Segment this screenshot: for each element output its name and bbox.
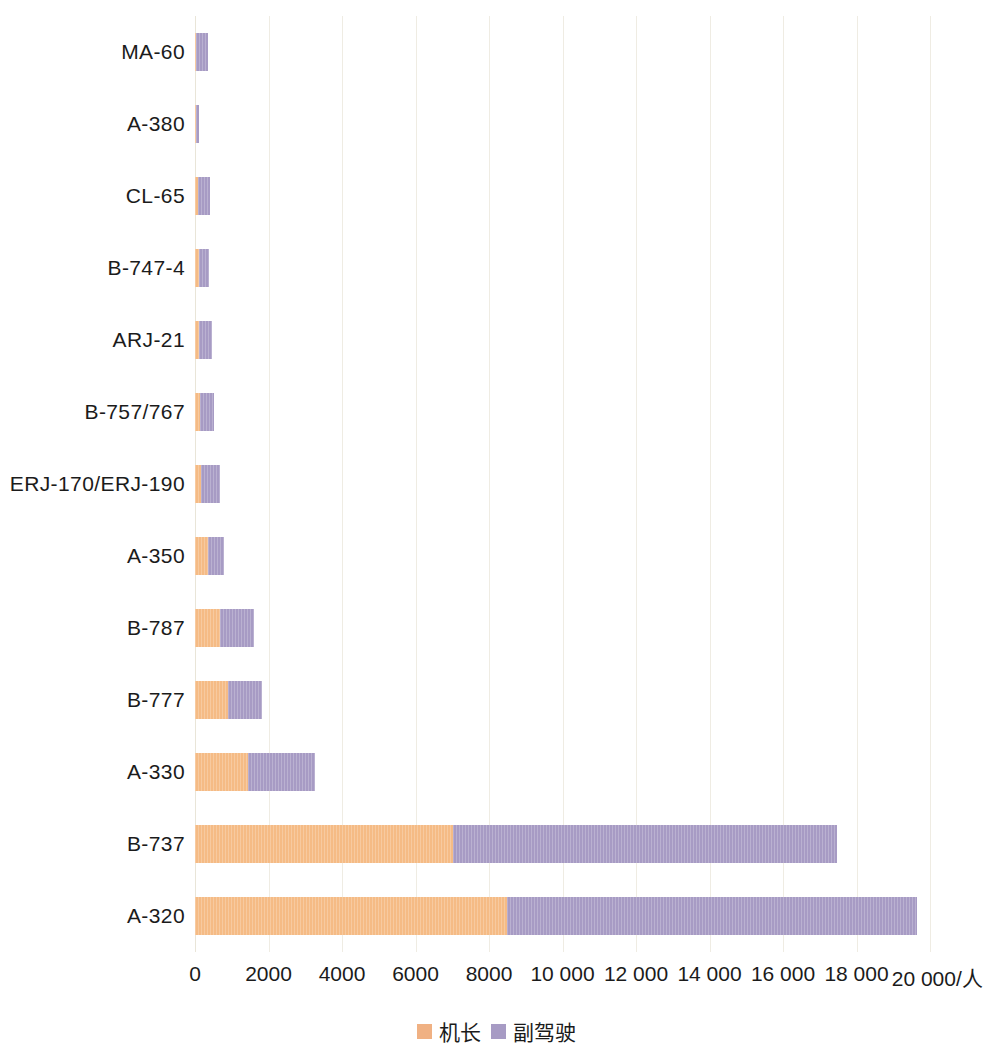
- bar-segment-first-officer[interactable]: [200, 393, 214, 431]
- legend-label: 机长: [439, 1016, 481, 1046]
- bar-segment-first-officer[interactable]: [201, 465, 220, 503]
- category-label: MA-60: [0, 40, 185, 64]
- bar-segment-first-officer[interactable]: [507, 897, 917, 935]
- bar-segment-first-officer[interactable]: [196, 33, 208, 71]
- category-label: ERJ-170/ERJ-190: [0, 472, 185, 496]
- stacked-bar[interactable]: [195, 321, 212, 359]
- gridline: [930, 16, 931, 952]
- bar-segment-first-officer[interactable]: [208, 537, 224, 575]
- bar-row: [195, 376, 930, 448]
- stacked-bar[interactable]: [195, 537, 224, 575]
- bar-segment-first-officer[interactable]: [453, 825, 837, 863]
- x-axis-tick-label: 18 000: [824, 962, 888, 986]
- bar-segment-first-officer[interactable]: [220, 609, 254, 647]
- category-label: B-737: [0, 832, 185, 856]
- category-label: ARJ-21: [0, 328, 185, 352]
- stacked-bar[interactable]: [195, 249, 209, 287]
- category-label-row: B-747-4: [0, 232, 185, 304]
- bar-row: [195, 592, 930, 664]
- bar-row: [195, 88, 930, 160]
- bar-segment-first-officer[interactable]: [199, 321, 212, 359]
- legend-label: 副驾驶: [513, 1016, 576, 1046]
- bar-row: [195, 16, 930, 88]
- bar-row: [195, 160, 930, 232]
- legend-swatch: [491, 1024, 506, 1039]
- bar-segment-captain[interactable]: [195, 537, 208, 575]
- x-axis-tick-label: 2000: [245, 962, 292, 986]
- category-label: B-747-4: [0, 256, 185, 280]
- value-axis-labels: 0200040006000800010 00012 00014 00016 00…: [0, 962, 993, 996]
- bar-row: [195, 232, 930, 304]
- stacked-bar-chart: MA-60A-380CL-65B-747-4ARJ-21B-757/767ERJ…: [0, 0, 993, 1052]
- stacked-bar[interactable]: [195, 825, 837, 863]
- category-axis-labels: MA-60A-380CL-65B-747-4ARJ-21B-757/767ERJ…: [0, 16, 185, 952]
- category-label: B-777: [0, 688, 185, 712]
- category-label-row: B-777: [0, 664, 185, 736]
- category-label: A-380: [0, 112, 185, 136]
- category-label-row: A-330: [0, 736, 185, 808]
- x-axis-tick-label: 6000: [392, 962, 439, 986]
- bar-row: [195, 304, 930, 376]
- legend-swatch: [417, 1024, 432, 1039]
- stacked-bar[interactable]: [195, 465, 220, 503]
- bar-segment-first-officer[interactable]: [196, 105, 199, 143]
- bar-segment-first-officer[interactable]: [248, 753, 315, 791]
- category-label-row: ERJ-170/ERJ-190: [0, 448, 185, 520]
- stacked-bar[interactable]: [195, 609, 254, 647]
- legend-item[interactable]: 机长: [417, 1016, 481, 1046]
- stacked-bar[interactable]: [195, 105, 199, 143]
- x-axis-tick-label: 10 000: [530, 962, 594, 986]
- x-axis-tick-label: 12 000: [604, 962, 668, 986]
- category-label-row: A-350: [0, 520, 185, 592]
- stacked-bar[interactable]: [195, 753, 315, 791]
- bar-row: [195, 736, 930, 808]
- x-axis-tick-label: 16 000: [751, 962, 815, 986]
- category-label: A-330: [0, 760, 185, 784]
- category-label-row: B-757/767: [0, 376, 185, 448]
- chart-legend: 机长副驾驶: [0, 1016, 993, 1046]
- bar-segment-first-officer[interactable]: [199, 249, 209, 287]
- bar-row: [195, 448, 930, 520]
- bar-row: [195, 664, 930, 736]
- plot-area: [195, 16, 930, 952]
- category-label-row: A-320: [0, 880, 185, 952]
- bar-segment-first-officer[interactable]: [228, 681, 262, 719]
- category-label-row: A-380: [0, 88, 185, 160]
- stacked-bar[interactable]: [195, 33, 208, 71]
- category-label: A-320: [0, 904, 185, 928]
- stacked-bar[interactable]: [195, 177, 210, 215]
- x-axis-tick-label: 8000: [466, 962, 513, 986]
- category-label: A-350: [0, 544, 185, 568]
- stacked-bar[interactable]: [195, 681, 262, 719]
- category-label-row: CL-65: [0, 160, 185, 232]
- x-axis-tick-label: 14 000: [677, 962, 741, 986]
- bar-segment-captain[interactable]: [195, 609, 220, 647]
- bar-row: [195, 520, 930, 592]
- bar-segment-first-officer[interactable]: [198, 177, 210, 215]
- bar-row: [195, 880, 930, 952]
- x-axis-tick-label: 0: [189, 962, 201, 986]
- bar-segment-captain[interactable]: [195, 681, 228, 719]
- x-axis-tick-label: 4000: [319, 962, 366, 986]
- x-axis-tick-label: 20 000/人: [892, 962, 983, 992]
- category-label-row: B-787: [0, 592, 185, 664]
- legend-item[interactable]: 副驾驶: [491, 1016, 576, 1046]
- stacked-bar[interactable]: [195, 897, 917, 935]
- bar-segment-captain[interactable]: [195, 825, 453, 863]
- bar-segment-captain[interactable]: [195, 753, 248, 791]
- category-label: CL-65: [0, 184, 185, 208]
- category-label-row: B-737: [0, 808, 185, 880]
- category-label: B-757/767: [0, 400, 185, 424]
- stacked-bar[interactable]: [195, 393, 214, 431]
- category-label-row: ARJ-21: [0, 304, 185, 376]
- category-label-row: MA-60: [0, 16, 185, 88]
- category-label: B-787: [0, 616, 185, 640]
- bar-segment-captain[interactable]: [195, 897, 507, 935]
- bar-row: [195, 808, 930, 880]
